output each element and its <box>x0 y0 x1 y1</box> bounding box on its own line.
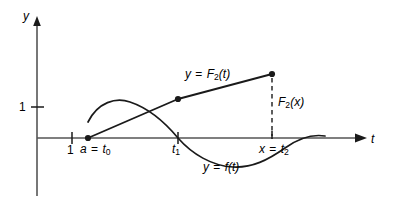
y-axis-label: y <box>23 10 29 22</box>
curve-label-y-equals-f-of-t: y = f(t) <box>203 161 239 173</box>
axis-group <box>33 16 367 196</box>
a-symbol: a <box>80 142 87 156</box>
subscript-0: 0 <box>106 147 111 157</box>
equals-sign: = <box>265 142 281 156</box>
point-label-a-equals-t0: a = t0 <box>80 143 111 155</box>
point-x-t2 <box>269 71 275 77</box>
curve-F2-of-t <box>88 74 272 138</box>
point-t1 <box>175 96 181 102</box>
equals-sign: = <box>87 142 103 156</box>
value-label-F2-of-x: F2(x) <box>278 96 304 108</box>
curve-label-y-equals-F2-of-t: y = F2(t) <box>185 68 230 80</box>
equals-sign: = <box>209 160 225 174</box>
F-symbol: F <box>207 67 214 81</box>
subscript-2: 2 <box>285 100 290 110</box>
point-label-t1: t1 <box>172 143 180 155</box>
equals-sign: = <box>191 67 207 81</box>
t-axis-label: t <box>371 133 374 145</box>
diagram-svg <box>0 0 394 206</box>
argument-t: (t) <box>228 160 239 174</box>
argument-x: (x) <box>290 95 304 109</box>
t-axis-tick-label-1: 1 <box>67 144 74 156</box>
point-label-x-equals-t2: x = t2 <box>259 143 289 155</box>
subscript-2: 2 <box>214 72 219 82</box>
subscript-2: 2 <box>284 147 289 157</box>
argument-t: (t) <box>219 67 230 81</box>
point-a-t0 <box>85 135 91 141</box>
figure-canvas: y t 1 1 a = t0 t1 x = t2 y = F2(t) y = f… <box>0 0 394 206</box>
curve-f-of-t <box>88 100 325 167</box>
y-axis-arrowhead <box>33 16 41 26</box>
t-axis-arrowhead <box>355 134 367 143</box>
subscript-1: 1 <box>175 147 180 157</box>
y-axis-tick-label-1: 1 <box>19 101 26 113</box>
